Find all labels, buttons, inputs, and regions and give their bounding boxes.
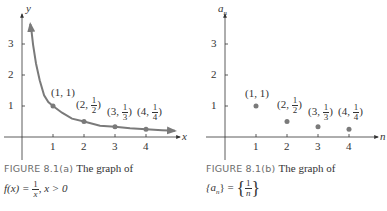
sequence-points: [254, 104, 352, 132]
formula-a: f(x) = 1x, x > 0: [4, 180, 68, 199]
x-tick-3: 3: [112, 140, 118, 152]
formula-b: {an} = {1n}: [206, 178, 260, 199]
n-axis-label: n: [380, 130, 386, 142]
seq-label-4: (4, 14): [338, 103, 363, 122]
point-label-3: (3, 13): [107, 103, 132, 122]
an-axis-label: an: [218, 2, 227, 17]
seq-label-2: (2, 12): [277, 96, 302, 115]
right-graph: [206, 14, 378, 160]
an-tick-2: 2: [211, 68, 217, 80]
x-tick-1: 1: [50, 140, 56, 152]
n-tick-2: 2: [284, 140, 290, 152]
an-tick-1: 1: [211, 99, 217, 111]
point-label-1: (1, 1): [51, 86, 75, 98]
point-label-2: (2, 12): [76, 96, 101, 115]
y-tick-3: 3: [8, 37, 14, 49]
point-label-4: (4, 14): [137, 103, 162, 122]
x-tick-2: 2: [81, 140, 87, 152]
y-tick-2: 2: [8, 68, 14, 80]
caption-b: FIGURE 8.1(b) The graph of: [206, 162, 335, 174]
y-tick-1: 1: [8, 99, 14, 111]
y-ticks: [22, 44, 25, 106]
caption-a: FIGURE 8.1(a) The graph of: [4, 162, 133, 174]
n-tick-1: 1: [253, 140, 259, 152]
x-axis-label: x: [182, 130, 187, 142]
x-ticks: [53, 134, 146, 137]
y-axis-label: y: [26, 2, 31, 14]
n-ticks: [256, 134, 349, 137]
x-tick-4: 4: [143, 140, 149, 152]
seq-label-1: (1, 1): [245, 87, 269, 99]
n-tick-4: 4: [346, 140, 352, 152]
left-graph: [4, 14, 180, 160]
an-ticks: [225, 44, 228, 106]
n-tick-3: 3: [315, 140, 321, 152]
an-tick-3: 3: [211, 37, 217, 49]
seq-label-3: (3, 13): [308, 103, 333, 122]
